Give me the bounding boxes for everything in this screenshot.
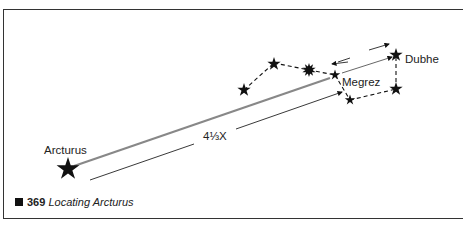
star-merak <box>389 82 402 95</box>
caption-square-icon <box>15 198 23 206</box>
pointer-line-arcturus-megrez <box>74 78 330 166</box>
measure-arrow-left <box>332 62 348 64</box>
figure-number: 369 <box>27 196 45 208</box>
figure-caption: 369 Locating Arcturus <box>15 196 134 208</box>
star-alkaid <box>237 83 250 96</box>
pointer-line-megrez-dubhe <box>342 57 392 73</box>
figure-title: Locating Arcturus <box>48 196 133 208</box>
star-arcturus <box>57 157 80 179</box>
measure-dash <box>338 58 350 62</box>
label-distance: 4⅓X <box>203 130 227 142</box>
label-megrez: Megrez <box>342 76 380 88</box>
star-mizar <box>267 57 280 70</box>
measure-arrow-right <box>369 44 389 50</box>
label-arcturus: Arcturus <box>44 144 87 156</box>
star-alioth <box>300 60 318 78</box>
distance-line-right <box>236 92 342 129</box>
label-dubhe: Dubhe <box>405 53 439 65</box>
distance-line-left <box>90 144 194 180</box>
